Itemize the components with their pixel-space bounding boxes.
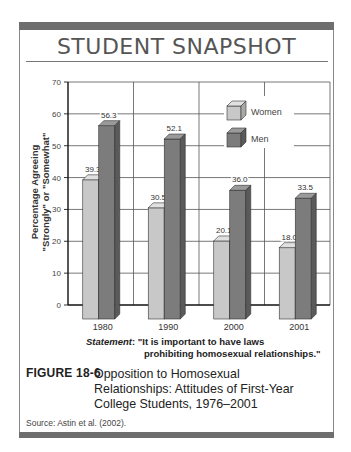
y-tick-label: 30 <box>52 205 61 214</box>
bar-side <box>311 193 316 319</box>
figure-number: FIGURE 18-6 <box>26 366 101 381</box>
y-tick-label: 40 <box>52 174 61 183</box>
statement-line1: : "It is important to have laws <box>132 336 264 347</box>
statement-line2: prohibiting homosexual relationships." <box>86 348 321 360</box>
bar-side <box>115 121 120 319</box>
bar-men-1980 <box>99 126 115 319</box>
y-tick-label: 70 <box>52 78 61 87</box>
legend-swatch-men <box>227 133 241 147</box>
x-tick-label: 1990 <box>158 322 178 332</box>
x-tick-label: 1980 <box>93 322 113 332</box>
bar-men-1990 <box>164 139 180 319</box>
y-tick-label: 60 <box>52 110 61 119</box>
y-axis-label: Percentage Agreeing"Strongly" or "Somewh… <box>29 133 51 252</box>
data-label: 52.1 <box>166 124 182 133</box>
bar-women-2001 <box>279 248 295 319</box>
bar-side <box>180 134 185 319</box>
y-tick-label: 20 <box>52 237 61 246</box>
y-tick-label: 0 <box>57 301 62 310</box>
data-label: 56.3 <box>101 111 117 120</box>
legend-label-men: Men <box>251 134 269 144</box>
legend-swatch-women <box>227 106 241 120</box>
data-label: 36.0 <box>232 175 248 184</box>
bar-women-1980 <box>83 180 99 319</box>
source-note: Source: Astin et al. (2002). <box>26 418 126 428</box>
legend-label-women: Women <box>251 107 282 117</box>
svg-text:"Strongly" or "Somewhat": "Strongly" or "Somewhat" <box>40 133 51 252</box>
data-label: 33.5 <box>297 183 313 192</box>
statement-label: Statement <box>86 336 132 347</box>
y-tick-label: 50 <box>52 142 61 151</box>
y-tick-label: 10 <box>52 269 61 278</box>
bar-men-2001 <box>295 198 311 319</box>
bar-side <box>246 185 251 319</box>
x-tick-label: 2001 <box>289 322 309 332</box>
figure-caption-text: Opposition to Homosexual Relationships: … <box>94 366 307 411</box>
svg-text:Percentage Agreeing: Percentage Agreeing <box>29 144 40 239</box>
x-tick-label: 2000 <box>224 322 244 332</box>
bar-women-1990 <box>148 208 164 319</box>
statement: Statement: "It is important to have laws… <box>86 336 321 360</box>
bar-women-2000 <box>214 241 230 319</box>
bar-men-2000 <box>230 190 246 319</box>
